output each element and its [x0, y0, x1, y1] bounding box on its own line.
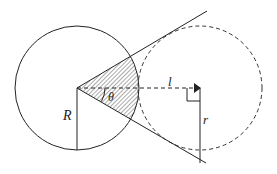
- label-r: r: [203, 112, 209, 127]
- geometry-diagram: R θ l r: [0, 0, 277, 174]
- label-l: l: [168, 74, 172, 89]
- label-R: R: [62, 108, 72, 123]
- upper-tangent-line: [77, 11, 207, 88]
- label-theta: θ: [108, 90, 114, 104]
